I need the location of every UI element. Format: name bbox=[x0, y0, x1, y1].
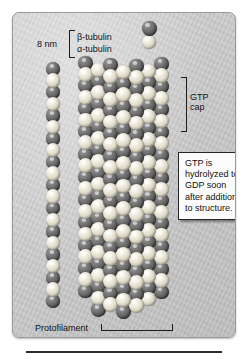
microtubule-subunit bbox=[141, 132, 156, 147]
alpha-tubulin-label: α-tubulin bbox=[77, 44, 112, 55]
beta-tubulin-label: β-tubulin bbox=[77, 32, 112, 43]
protofilament-subunit bbox=[46, 120, 60, 134]
microtubule-subunit bbox=[116, 110, 131, 125]
microtubule-subunit bbox=[154, 114, 169, 129]
microtubule-subunit bbox=[129, 275, 144, 290]
microtubule-subunit bbox=[116, 65, 131, 80]
protofilament-subunit bbox=[46, 73, 60, 87]
bottom-divider-rule bbox=[26, 351, 222, 353]
dimer-alpha-subunit bbox=[142, 35, 156, 49]
microtubule-subunit bbox=[154, 228, 169, 243]
diagram-panel: 8 nm β-tubulin α-tubulin GTP cap GTP is … bbox=[12, 12, 236, 338]
dimension-bracket-icon bbox=[101, 324, 173, 331]
microtubule-subunit bbox=[154, 182, 169, 197]
microtubule-subunit bbox=[154, 68, 169, 83]
diameter-label-24nm: 24 nm bbox=[13, 337, 236, 338]
microtubule-subunit bbox=[116, 247, 131, 262]
microtubule-subunit bbox=[129, 184, 144, 199]
microtubule-subunit bbox=[116, 201, 131, 216]
microtubule-subunit bbox=[129, 298, 144, 313]
microtubule-subunit bbox=[129, 252, 144, 267]
scale-label-8nm: 8 nm bbox=[37, 39, 57, 50]
microtubule-subunit bbox=[154, 136, 169, 151]
microtubule-subunit bbox=[141, 269, 156, 284]
microtubule-subunit bbox=[154, 250, 169, 265]
protofilament-subunit bbox=[46, 213, 60, 227]
protofilament-subunit bbox=[46, 189, 60, 203]
microtubule-subunit bbox=[116, 179, 131, 194]
microtubule-figure: 8 nm β-tubulin α-tubulin GTP cap GTP is … bbox=[0, 0, 248, 359]
gtp-cap-label-line2: cap bbox=[190, 102, 205, 113]
microtubule-subunit bbox=[129, 230, 144, 245]
protofilament-subunit bbox=[46, 236, 60, 250]
microtubule-subunit bbox=[141, 155, 156, 170]
microtubule-subunit bbox=[141, 246, 156, 261]
microtubule-subunit bbox=[154, 205, 169, 220]
microtubule-subunit bbox=[154, 273, 169, 288]
microtubule-subunit bbox=[129, 161, 144, 176]
microtubule-subunit bbox=[154, 159, 169, 174]
protofilament-subunit bbox=[46, 259, 60, 273]
dimer-beta-subunit bbox=[142, 21, 157, 36]
microtubule-subunit bbox=[116, 87, 131, 102]
microtubule-subunit bbox=[129, 70, 144, 85]
protofilament-subunit bbox=[46, 166, 60, 180]
microtubule-subunit bbox=[141, 292, 156, 307]
microtubule-subunit bbox=[116, 156, 131, 171]
microtubule-subunit bbox=[116, 133, 131, 148]
microtubule-subunit bbox=[129, 207, 144, 222]
right-square-bracket-icon bbox=[181, 77, 187, 132]
microtubule-subunit bbox=[129, 116, 144, 131]
protofilament-label: Protofilament bbox=[35, 323, 88, 334]
gtp-hydrolysis-callout: GTP is hydrolyzed to GDP soon after addi… bbox=[178, 152, 236, 220]
microtubule-subunit bbox=[154, 91, 169, 106]
protofilament-subunit bbox=[46, 143, 60, 157]
microtubule-subunit bbox=[116, 224, 131, 239]
left-square-bracket-icon bbox=[69, 30, 75, 58]
microtubule-subunit bbox=[116, 270, 131, 285]
microtubule-subunit bbox=[116, 293, 131, 308]
protofilament-subunit bbox=[46, 97, 60, 111]
microtubule-subunit bbox=[129, 93, 144, 108]
protofilament-subunit bbox=[46, 282, 60, 296]
microtubule-subunit bbox=[129, 138, 144, 153]
